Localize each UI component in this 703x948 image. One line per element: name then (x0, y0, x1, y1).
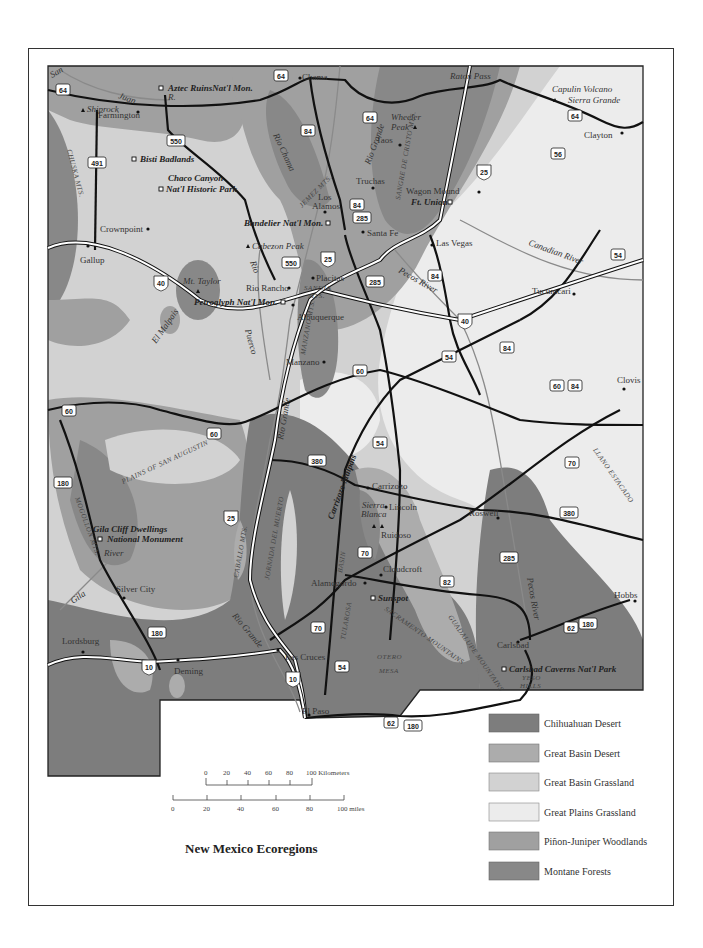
shield-us285c: 285 (500, 552, 518, 563)
label-aztec: Aztec RuinsNat'l Mon. (167, 83, 253, 93)
shield-us180c: 180 (579, 618, 597, 629)
label-manzano: Manzano (286, 357, 320, 367)
label-mt-taylor: Mt. Taylor (182, 276, 221, 286)
svg-text:40: 40 (237, 805, 245, 813)
label-bandelier: Bandelier Nat'l Mon. (243, 218, 323, 228)
label-yeso-2: HILLS (519, 682, 541, 690)
label-lincoln: Lincoln (389, 502, 417, 512)
svg-text:82: 82 (443, 579, 451, 586)
svg-text:40: 40 (461, 318, 469, 325)
shield-i25a: 25 (477, 165, 491, 180)
label-tucumcari: Tucumcari (532, 286, 571, 296)
svg-text:25: 25 (227, 515, 235, 522)
svg-text:10: 10 (145, 664, 153, 671)
shield-us180b: 180 (148, 627, 166, 638)
label-gila-2: National Monument (106, 534, 183, 544)
shield-us54b: 54 (442, 351, 456, 362)
svg-text:550: 550 (285, 260, 297, 267)
svg-text:64: 64 (366, 115, 374, 122)
svg-text:25: 25 (480, 169, 488, 176)
svg-text:54: 54 (376, 440, 384, 447)
label-mesa: MESA (378, 667, 399, 675)
svg-text:70: 70 (314, 625, 322, 632)
shield-i10b: 10 (286, 672, 300, 687)
legend-item-pinon-juniper: Piñon-Juniper Woodlands (489, 832, 647, 850)
svg-text:0: 0 (171, 805, 175, 813)
svg-text:60: 60 (265, 769, 273, 777)
shield-us550b: 550 (282, 257, 300, 268)
ecoregion-map: 64 64 64 64 550 550 491 84 84 84 84 84 2… (0, 0, 703, 948)
shield-us56: 56 (551, 148, 565, 159)
shield-i25c: 25 (224, 511, 238, 526)
shield-us70a: 70 (565, 457, 579, 468)
svg-text:56: 56 (554, 151, 562, 158)
svg-text:550: 550 (170, 138, 182, 145)
svg-text:491: 491 (91, 160, 103, 167)
label-alamos: Alamos (312, 201, 340, 211)
svg-text:285: 285 (369, 279, 381, 286)
shield-i25b: 25 (321, 252, 335, 267)
svg-text:84: 84 (304, 128, 312, 135)
svg-text:60: 60 (272, 805, 280, 813)
shield-us180d: 180 (404, 720, 422, 731)
label-shiprock: Shiprock (87, 104, 120, 114)
svg-text:Montane Forests: Montane Forests (544, 866, 611, 877)
label-otero: OTERO (377, 653, 402, 661)
shield-us380b: 380 (560, 507, 578, 518)
shield-us285b: 285 (366, 276, 384, 287)
shield-us62b: 62 (384, 717, 398, 728)
shield-us82: 82 (440, 576, 454, 587)
label-el-paso: El Paso (302, 706, 330, 716)
shield-us550a: 550 (167, 135, 185, 146)
label-chama: Chama (302, 72, 328, 82)
label-deming: Deming (174, 666, 203, 676)
shield-us54c: 54 (373, 437, 387, 448)
svg-text:180: 180 (57, 480, 69, 487)
label-cabezon: Cabezon Peak (252, 241, 305, 251)
label-ruidoso: Ruidoso (381, 530, 412, 540)
svg-text:70: 70 (361, 550, 369, 557)
svg-text:70: 70 (568, 460, 576, 467)
svg-text:62: 62 (387, 720, 395, 727)
shield-i40a: 40 (154, 276, 168, 291)
label-carrizozo: Carrizozo (372, 481, 408, 491)
svg-text:54: 54 (445, 354, 453, 361)
label-bisti: Bisti Badlands (139, 154, 195, 164)
scale-bar: 0 20 40 60 80 100 Kilometers 0 20 40 60 … (171, 769, 365, 813)
label-raton-pass: Raton Pass (449, 71, 491, 81)
shield-us84e: 84 (568, 380, 582, 391)
svg-text:285: 285 (503, 555, 515, 562)
svg-text:84: 84 (571, 383, 579, 390)
label-yeso-1: YESO (522, 674, 541, 682)
shield-us84c: 84 (428, 270, 442, 281)
svg-text:64: 64 (59, 87, 67, 94)
svg-text:285: 285 (356, 215, 368, 222)
shield-us64c: 64 (363, 112, 377, 123)
svg-text:80: 80 (306, 805, 314, 813)
label-sandia-2: MTS. (307, 292, 325, 300)
label-carlsbad: Carlsbad (497, 640, 529, 650)
label-wagon-mound: Wagon Mound (406, 186, 460, 196)
svg-text:Chihuahuan Desert: Chihuahuan Desert (544, 718, 621, 729)
shield-us64d: 64 (568, 110, 582, 121)
shield-us64a: 64 (56, 84, 70, 95)
legend: Chihuahuan Desert Great Basin Desert Gre… (489, 714, 647, 880)
svg-text:40: 40 (244, 769, 252, 777)
svg-text:0: 0 (204, 769, 208, 777)
region-basin-patch (169, 674, 185, 698)
label-lordsburg: Lordsburg (62, 636, 100, 646)
shield-us54a: 54 (611, 249, 625, 260)
shield-us60a: 60 (62, 405, 76, 416)
legend-item-great-basin-desert: Great Basin Desert (489, 744, 620, 762)
svg-text:20: 20 (203, 805, 211, 813)
label-gila-1: Gila Cliff Dwellings (93, 524, 168, 534)
svg-text:60: 60 (210, 431, 218, 438)
shield-us491: 491 (88, 157, 106, 168)
scale-km-label: 100 Kilometers (306, 769, 350, 777)
label-clovis: Clovis (617, 375, 641, 385)
label-cloudcroft: Cloudcroft (383, 564, 422, 574)
svg-text:10: 10 (289, 676, 297, 683)
label-chaco-1: Chaco Canyon (168, 173, 223, 183)
label-sunspot: Sunspot (378, 593, 409, 603)
shield-us54d: 54 (335, 661, 349, 672)
